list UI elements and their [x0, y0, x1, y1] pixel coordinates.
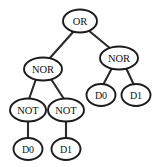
expression-tree-diagram: ORNORNORNOTNOTD0D1D0D1 [0, 0, 155, 167]
tree-node[interactable]: NOR [100, 47, 138, 70]
tree-node[interactable]: NOT [48, 99, 84, 122]
node-label: D1 [60, 144, 72, 155]
node-label: NOT [17, 105, 39, 116]
node-label: D0 [95, 90, 107, 101]
tree-edge [51, 79, 64, 99]
tree-node[interactable]: D1 [52, 138, 81, 160]
node-label: NOR [32, 64, 54, 75]
tree-node[interactable]: OR [63, 10, 97, 33]
tree-node[interactable]: NOR [24, 58, 62, 81]
tree-node[interactable]: NOT [10, 99, 46, 122]
tree-node[interactable]: D1 [122, 84, 151, 106]
node-label: NOT [55, 105, 77, 116]
tree-node[interactable]: D0 [87, 84, 116, 106]
node-label: D0 [22, 144, 34, 155]
tree-canvas: ORNORNORNOTNOTD0D1D0D1 [0, 0, 155, 167]
node-label: OR [73, 16, 88, 27]
nodes-group: ORNORNORNOTNOTD0D1D0D1 [10, 10, 151, 161]
tree-edge [88, 30, 111, 49]
tree-edge [29, 79, 36, 99]
tree-edge [103, 68, 112, 85]
tree-edge [49, 31, 74, 59]
tree-edge [126, 68, 134, 85]
node-label: NOR [108, 53, 130, 64]
node-label: D1 [130, 90, 142, 101]
tree-node[interactable]: D0 [14, 138, 43, 160]
